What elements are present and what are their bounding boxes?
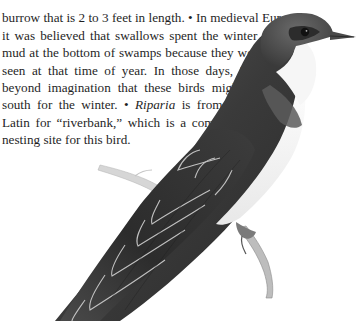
twig-perch [236, 222, 273, 298]
bank-swallow-illustration [0, 0, 360, 321]
eye [301, 28, 309, 36]
twig-back [98, 165, 162, 194]
book-page: tunnel or burrow... burrow that is 2 to … [0, 0, 360, 321]
beak [330, 31, 356, 40]
